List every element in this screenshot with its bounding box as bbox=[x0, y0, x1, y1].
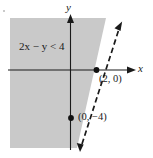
point-label-y-intercept: (0, −4) bbox=[78, 112, 107, 123]
scan-speck bbox=[3, 10, 5, 12]
point-label-x-intercept: (2, 0) bbox=[99, 74, 122, 85]
shaded-solution-region bbox=[10, 18, 106, 148]
graph-canvas bbox=[0, 0, 153, 158]
y-axis-label: y bbox=[66, 2, 71, 13]
inequality-annotation: 2x − y < 4 bbox=[19, 41, 64, 52]
x-axis-label: x bbox=[138, 63, 143, 74]
point-y-intercept bbox=[68, 115, 74, 121]
inequality-graph-figure: y x 2x − y < 4 (2, 0) (0, −4) bbox=[0, 0, 153, 158]
